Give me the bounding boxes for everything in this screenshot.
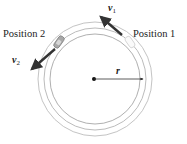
v2-label: v2 — [12, 55, 20, 67]
v1-label: v1 — [108, 3, 116, 15]
radius-label: r — [116, 66, 120, 76]
position-2-label: Position 2 — [3, 29, 45, 40]
position-1-label: Position 1 — [133, 29, 175, 40]
circular-motion-diagram — [0, 0, 187, 144]
velocity-arrow-v1 — [101, 17, 122, 35]
v2-subscript: 2 — [16, 59, 20, 67]
v1-subscript: 1 — [112, 7, 116, 15]
